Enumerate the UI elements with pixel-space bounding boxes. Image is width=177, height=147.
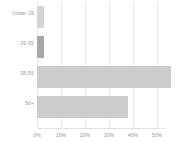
xtick-label-2: 20% [75, 133, 95, 138]
bar-chart: Under 26 26-35 36-55 56+ 0% 10% 20% 30% … [0, 0, 177, 147]
bar-under-26[interactable] [37, 6, 44, 28]
category-label-0: Under 26 [0, 11, 34, 16]
bar-56-plus[interactable] [37, 96, 128, 118]
bar-36-55[interactable] [37, 66, 171, 88]
category-label-3: 56+ [0, 101, 34, 106]
xtick-label-3: 30% [99, 133, 119, 138]
xtick-label-4: 40% [123, 133, 143, 138]
category-label-2: 36-55 [0, 71, 34, 76]
category-label-1: 26-35 [0, 41, 34, 46]
plot-area [37, 2, 177, 128]
xtick-label-0: 0% [27, 133, 47, 138]
gridline-50 [157, 2, 158, 128]
gridline-40 [133, 2, 134, 128]
bar-26-35[interactable] [37, 36, 44, 58]
xtick-label-1: 10% [51, 133, 71, 138]
xtick-label-5: 50% [147, 133, 167, 138]
x-axis-line [37, 128, 165, 129]
